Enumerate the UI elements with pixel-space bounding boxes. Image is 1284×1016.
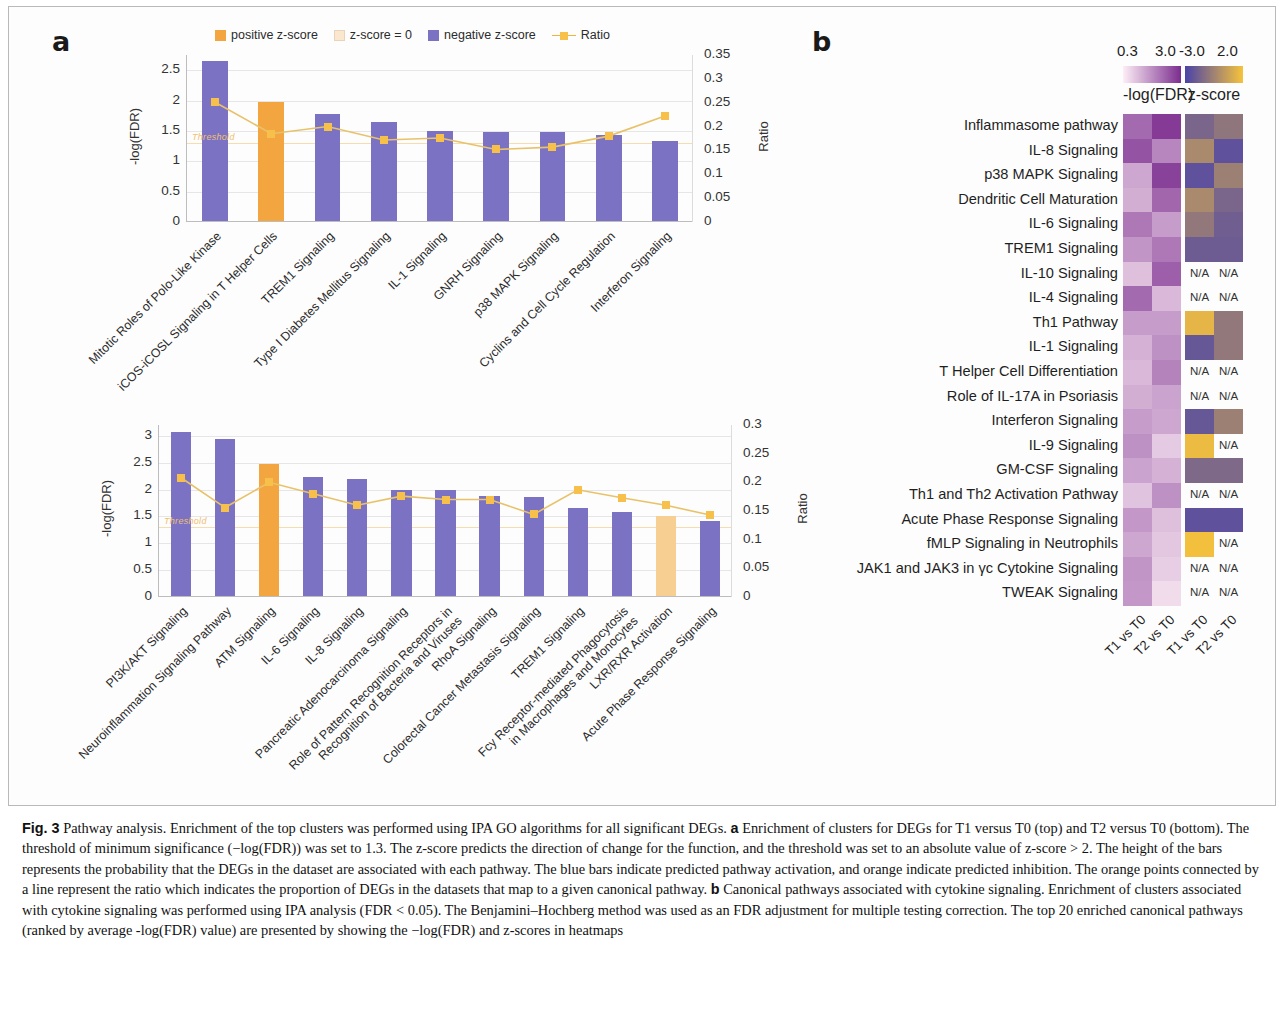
zscore-na-cell: N/A [1185, 390, 1214, 402]
zscore-na-cell: N/A [1214, 562, 1243, 574]
zscore-na-cell: N/A [1185, 365, 1214, 377]
zscore-na-cell: N/A [1214, 537, 1243, 549]
fdr-heatmap-cell [1152, 114, 1181, 139]
fdr-heatmap-cell [1123, 262, 1152, 287]
zscore-heatmap-cell [1185, 188, 1214, 213]
caption-bold-b: b [711, 881, 720, 897]
heatmap-row-label: p38 MAPK Signaling [0, 166, 1118, 182]
heatmap-row-label: Dendritic Cell Maturation [0, 191, 1118, 207]
zscore-colorbar-min: -3.0 [1179, 42, 1205, 59]
fdr-heatmap-cell [1152, 163, 1181, 188]
zscore-heatmap-cell [1214, 311, 1243, 336]
zscore-heatmap-cell [1214, 458, 1243, 483]
fdr-heatmap-cell [1152, 409, 1181, 434]
fdr-heatmap-cell [1123, 188, 1152, 213]
fdr-heatmap-cell [1123, 114, 1152, 139]
fdr-heatmap-cell [1152, 557, 1181, 582]
zscore-na-cell: N/A [1214, 267, 1243, 279]
heatmap-row-label: fMLP Signaling in Neutrophils [0, 535, 1118, 551]
zscore-na-row: N/AN/A [1185, 557, 1243, 582]
zscore-na-cell: N/A [1214, 488, 1243, 500]
zscore-na-cell: N/A [1214, 439, 1243, 451]
heatmap-row-label: TWEAK Signaling [0, 584, 1118, 600]
fdr-heatmap-cell [1123, 458, 1152, 483]
zscore-heatmap-cell [1214, 188, 1243, 213]
fdr-colorbar [1123, 66, 1181, 83]
zscore-na-row: N/AN/A [1185, 483, 1243, 508]
fdr-heatmap-cell [1152, 139, 1181, 164]
zscore-na-cell: N/A [1185, 586, 1214, 598]
figure-caption: Fig. 3 Pathway analysis. Enrichment of t… [22, 818, 1268, 941]
fdr-heatmap-cell [1152, 286, 1181, 311]
fdr-heatmap-cell [1152, 532, 1181, 557]
fdr-heatmap-cell [1152, 458, 1181, 483]
heatmap-row-label: Th1 Pathway [0, 314, 1118, 330]
zscore-heatmap-cell [1185, 458, 1214, 483]
heatmap-row-label: Inflammasome pathway [0, 117, 1118, 133]
heatmap-row-label: IL-6 Signaling [0, 215, 1118, 231]
heatmap-row-label: T Helper Cell Differentiation [0, 363, 1118, 379]
zscore-na-cell: N/A [1214, 291, 1243, 303]
fdr-heatmap-cell [1152, 360, 1181, 385]
fdr-heatmap-cell [1123, 385, 1152, 410]
zscore-colorbar-max: 2.0 [1217, 42, 1238, 59]
fdr-heatmap-cell [1123, 163, 1152, 188]
zscore-na-row: N/AN/A [1185, 262, 1243, 287]
fdr-heatmap-cell [1152, 311, 1181, 336]
fdr-heatmap-cell [1152, 483, 1181, 508]
zscore-na-row: N/AN/A [1185, 581, 1243, 606]
fdr-heatmap-cell [1123, 483, 1152, 508]
zscore-heatmap-cell [1214, 114, 1243, 139]
zscore-heatmap-cell [1185, 163, 1214, 188]
zscore-na-cell: N/A [1185, 562, 1214, 574]
zscore-na-cell: N/A [1214, 365, 1243, 377]
zscore-colorbar [1185, 66, 1243, 83]
zscore-heatmap-cell [1185, 532, 1214, 557]
zscore-heatmap-cell [1214, 212, 1243, 237]
fdr-heatmap-cell [1152, 262, 1181, 287]
zscore-heatmap-cell [1185, 508, 1214, 533]
zscore-heatmap-cell [1214, 409, 1243, 434]
fdr-heatmap-cell [1123, 139, 1152, 164]
heatmap-row-label: Acute Phase Response Signaling [0, 511, 1118, 527]
zscore-na-cell: N/A [1214, 390, 1243, 402]
fdr-heatmap-cell [1152, 212, 1181, 237]
fdr-heatmap-cell [1123, 581, 1152, 606]
fdr-heatmap-cell [1123, 335, 1152, 360]
zscore-na-row: N/AN/A [1185, 286, 1243, 311]
zscore-heatmap-cell [1214, 163, 1243, 188]
zscore-heatmap-cell [1214, 139, 1243, 164]
ratio-point [353, 501, 361, 509]
heatmap-row-label: IL-10 Signaling [0, 265, 1118, 281]
fdr-heatmap-cell [1152, 237, 1181, 262]
zscore-heatmap-cell [1185, 114, 1214, 139]
heatmap-row-label: Interferon Signaling [0, 412, 1118, 428]
heatmap-row-label: IL-1 Signaling [0, 338, 1118, 354]
heatmap-row-label: TREM1 Signaling [0, 240, 1118, 256]
heatmap-row-label: JAK1 and JAK3 in γc Cytokine Signaling [0, 560, 1118, 576]
zscore-na-cell: N/A [1185, 291, 1214, 303]
zscore-heatmap-cell [1214, 335, 1243, 360]
zscore-na-row: N/AN/A [1185, 360, 1243, 385]
zscore-heatmap-cell [1185, 311, 1214, 336]
zscore-heatmap-cell [1185, 335, 1214, 360]
fdr-heatmap-cell [1152, 335, 1181, 360]
fdr-heatmap-cell [1123, 212, 1152, 237]
heatmap-row-label: Th1 and Th2 Activation Pathway [0, 486, 1118, 502]
ratio-point [662, 501, 670, 509]
zscore-na-cell: N/A [1214, 586, 1243, 598]
fdr-heatmap-cell [1123, 557, 1152, 582]
heatmap-row-label: IL-8 Signaling [0, 142, 1118, 158]
fdr-heatmap-cell [1123, 532, 1152, 557]
heatmap-row-label: IL-4 Signaling [0, 289, 1118, 305]
zscore-heatmap-cell [1214, 508, 1243, 533]
zscore-na-cell: N/A [1185, 488, 1214, 500]
fdr-heatmap-cell [1152, 508, 1181, 533]
caption-text-1: Pathway analysis. Enrichment of the top … [60, 820, 731, 836]
fdr-heatmap-cell [1123, 434, 1152, 459]
fdr-colorbar-title: -log(FDR) [1123, 86, 1181, 104]
fdr-heatmap-cell [1152, 188, 1181, 213]
panel-b-letter: b [812, 26, 831, 57]
zscore-heatmap-cell [1185, 212, 1214, 237]
heatmap-row-label: IL-9 Signaling [0, 437, 1118, 453]
